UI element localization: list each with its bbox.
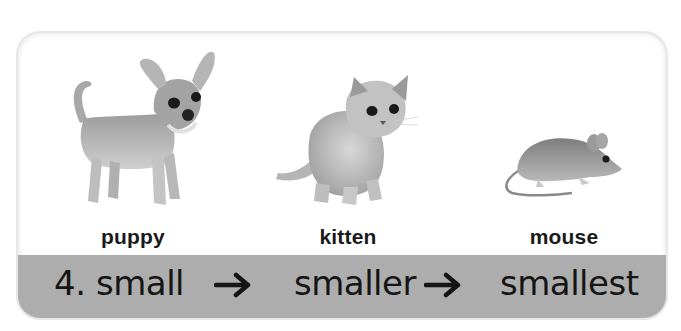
puppy-illustration xyxy=(58,41,218,213)
exercise-number: 4. xyxy=(54,263,85,303)
comparison-band: 4. small smaller smallest xyxy=(18,255,666,318)
mouse-illustration xyxy=(498,127,628,199)
exercise-card: puppy kitten mouse 4. small smaller smal… xyxy=(18,33,666,318)
comparison-comparative: smaller xyxy=(294,263,416,303)
animal-label-puppy: puppy xyxy=(101,225,165,249)
right-arrow-icon xyxy=(214,272,252,298)
animal-label-kitten: kitten xyxy=(319,225,376,249)
comparison-superlative: smallest xyxy=(500,263,639,303)
comparison-positive: small xyxy=(96,263,184,303)
right-arrow-icon xyxy=(424,272,462,298)
kitten-illustration xyxy=(270,75,420,207)
animal-label-mouse: mouse xyxy=(530,225,599,249)
